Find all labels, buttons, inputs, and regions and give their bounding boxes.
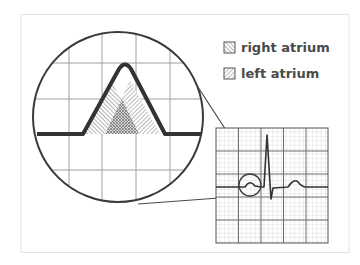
left-atrium-swatch: [224, 68, 235, 79]
ecg-minor-grid: [216, 128, 328, 243]
magnifier: [25, 20, 210, 215]
legend: right atrium left atrium: [224, 40, 330, 81]
right-atrium-swatch: [224, 42, 235, 53]
atrial-p-wave-diagram: right atrium left atrium: [0, 0, 360, 265]
legend-item-left-atrium: left atrium: [224, 66, 319, 81]
legend-label: left atrium: [241, 66, 319, 81]
ecg-strip: [216, 128, 328, 243]
legend-item-right-atrium: right atrium: [224, 40, 330, 55]
legend-label: right atrium: [241, 40, 330, 55]
